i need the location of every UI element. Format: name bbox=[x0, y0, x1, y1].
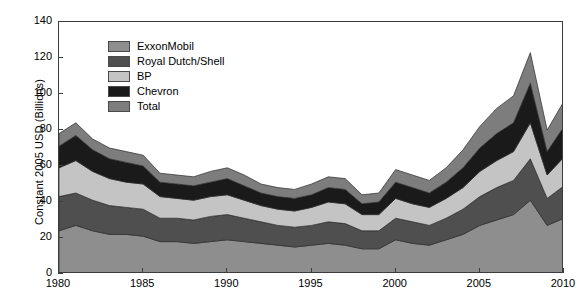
chart-legend: ExxonMobilRoyal Dutch/ShellBPChevronTota… bbox=[108, 39, 224, 114]
legend-item[interactable]: ExxonMobil bbox=[108, 39, 224, 54]
y-tick-mark bbox=[58, 201, 63, 202]
x-tick-mark bbox=[226, 268, 227, 273]
y-tick-mark bbox=[58, 129, 63, 130]
y-tick-mark bbox=[58, 237, 63, 238]
y-tick-label: 140 bbox=[0, 15, 52, 26]
y-tick-mark bbox=[58, 93, 63, 94]
x-tick-mark bbox=[311, 268, 312, 273]
y-tick-mark bbox=[58, 57, 63, 58]
y-tick-label: 40 bbox=[0, 195, 52, 206]
x-tick-label: 1985 bbox=[112, 278, 172, 289]
x-tick-label: 2010 bbox=[533, 278, 580, 289]
legend-label: Chevron bbox=[137, 86, 179, 97]
legend-item[interactable]: BP bbox=[108, 69, 224, 84]
y-tick-label: 80 bbox=[0, 123, 52, 134]
legend-label: BP bbox=[137, 71, 152, 82]
y-tick-mark bbox=[58, 165, 63, 166]
legend-item[interactable]: Total bbox=[108, 99, 224, 114]
chart-figure: Constant 2005 USD (Billions) 02040608010… bbox=[0, 0, 580, 300]
x-tick-mark bbox=[142, 268, 143, 273]
x-tick-mark bbox=[395, 268, 396, 273]
x-tick-label: 1995 bbox=[281, 278, 341, 289]
legend-item[interactable]: Royal Dutch/Shell bbox=[108, 54, 224, 69]
y-tick-label: 100 bbox=[0, 87, 52, 98]
legend-swatch-icon bbox=[108, 41, 130, 52]
legend-label: ExxonMobil bbox=[137, 41, 194, 52]
x-tick-label: 2000 bbox=[365, 278, 425, 289]
legend-swatch-icon bbox=[108, 86, 130, 97]
y-tick-label: 20 bbox=[0, 231, 52, 242]
x-tick-mark bbox=[58, 268, 59, 273]
y-tick-label: 120 bbox=[0, 51, 52, 62]
legend-swatch-icon bbox=[108, 71, 130, 82]
x-tick-label: 1980 bbox=[28, 278, 88, 289]
legend-swatch-icon bbox=[108, 56, 130, 67]
y-tick-label: 60 bbox=[0, 159, 52, 170]
x-tick-label: 1990 bbox=[196, 278, 256, 289]
legend-item[interactable]: Chevron bbox=[108, 84, 224, 99]
x-tick-mark bbox=[563, 268, 564, 273]
y-tick-mark bbox=[58, 273, 63, 274]
legend-swatch-icon bbox=[108, 101, 130, 112]
y-tick-label: 0 bbox=[0, 267, 52, 278]
legend-label: Royal Dutch/Shell bbox=[137, 56, 224, 67]
legend-label: Total bbox=[137, 101, 160, 112]
y-tick-mark bbox=[58, 21, 63, 22]
x-tick-mark bbox=[479, 268, 480, 273]
x-tick-label: 2005 bbox=[449, 278, 509, 289]
